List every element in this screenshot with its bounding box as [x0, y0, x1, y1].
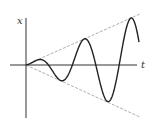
resonance-diagram: x t	[0, 0, 155, 126]
x-axis-label: t	[141, 59, 146, 70]
lower-envelope-line	[26, 65, 140, 117]
oscillation-curve	[26, 18, 139, 102]
y-axis-label: x	[17, 15, 23, 26]
